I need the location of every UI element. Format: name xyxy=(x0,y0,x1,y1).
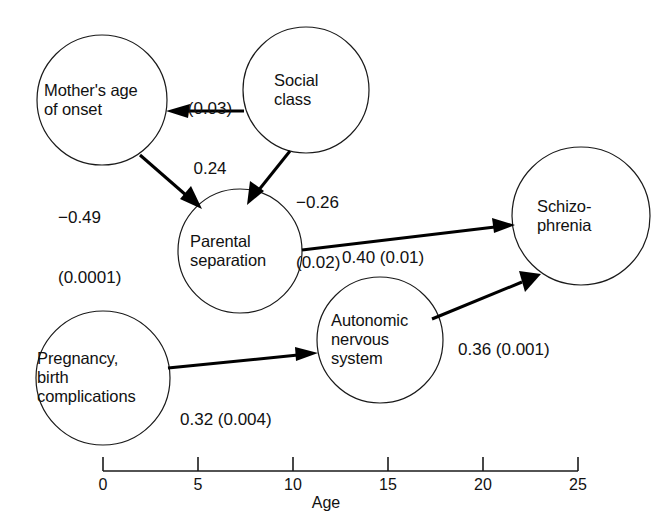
age-axis xyxy=(103,457,578,471)
edge-label-line: 0.36 (0.001) xyxy=(458,340,608,360)
node-label-pregnancy-birth-complications: Pregnancy, birth complications xyxy=(37,349,177,406)
edge-pregnancy-to-autonomic-nervous-system xyxy=(168,347,318,368)
edge-label-line: 0.32 (0.004) xyxy=(180,410,330,430)
edge-label-parental-separation-to-schizophrenia: 0.40 (0.01) xyxy=(342,208,472,308)
axis-tick-label-15: 15 xyxy=(368,476,408,494)
node-label-mothers-age-of-onset: Mother's age of onset xyxy=(44,81,164,119)
edge-label-line: (0.03) xyxy=(176,99,244,119)
edge-label-line: −0.49 xyxy=(58,208,168,228)
path-diagram: Mother's age of onset Social class Paren… xyxy=(0,0,668,524)
edge-label-social-class-to-mothers-age: (0.03) 0.24 xyxy=(176,59,244,219)
edge-label-line: 0.24 xyxy=(176,159,244,179)
axis-tick-label-10: 10 xyxy=(273,476,313,494)
edge-label-line: 0.40 (0.01) xyxy=(342,248,472,268)
edge-label-pregnancy-to-autonomic-nervous-system: 0.32 (0.004) xyxy=(180,370,330,470)
node-label-autonomic-nervous-system: Autonomic nervous system xyxy=(331,311,441,368)
arrowhead-icon xyxy=(519,271,541,292)
axis-title-age: Age xyxy=(286,494,366,512)
edge-label-mothers-age-to-parental-separation: −0.49 (0.0001) xyxy=(58,168,168,328)
arrowhead-icon xyxy=(295,347,318,361)
node-label-schizophrenia: Schizo- phrenia xyxy=(537,197,637,235)
axis-tick-label-20: 20 xyxy=(463,476,503,494)
axis-tick-label-25: 25 xyxy=(558,476,598,494)
axis-tick-label-5: 5 xyxy=(178,476,218,494)
edge-label-autonomic-nervous-system-to-schizophrenia: 0.36 (0.001) xyxy=(458,300,608,400)
node-label-social-class: Social class xyxy=(274,71,364,109)
edge-label-line: (0.0001) xyxy=(58,268,168,288)
axis-tick-label-0: 0 xyxy=(83,476,123,494)
node-label-parental-separation: Parental separation xyxy=(190,232,300,270)
